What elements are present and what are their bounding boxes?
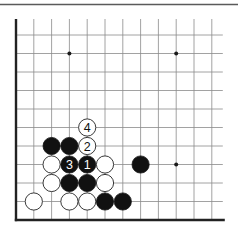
black-stone [79,174,96,191]
go-board-diagram: 4231 [0,0,238,238]
move-number-label: 4 [84,121,91,135]
black-stone-circle [79,174,96,191]
black-stone [114,193,131,210]
white-stone [61,193,78,210]
star-point [174,163,178,167]
black-stone-circle [61,137,78,154]
white-stone-circle [25,193,42,210]
black-stone-circle [132,156,149,173]
white-stone [25,193,42,210]
move-number-label: 1 [84,158,91,172]
star-point [174,52,178,56]
white-stone [96,156,113,173]
board-edges [15,19,225,221]
white-stone-circle [61,193,78,210]
black-stone-circle [96,193,113,210]
black-stone [96,193,113,210]
move-3-stone: 3 [61,156,78,173]
black-stone [43,137,60,154]
black-stone [132,156,149,173]
white-stone [96,174,113,191]
black-stone [61,174,78,191]
white-stone-circle [96,174,113,191]
black-stone-circle [61,174,78,191]
white-stone-circle [43,174,60,191]
move-1-stone: 1 [79,156,96,173]
white-stone-circle [79,193,96,210]
star-point [67,52,71,56]
move-number-label: 3 [66,158,73,172]
black-stone [61,137,78,154]
move-number-label: 2 [84,140,91,154]
white-stone [43,156,60,173]
white-stone [79,193,96,210]
black-stone-circle [114,193,131,210]
black-stone-circle [43,137,60,154]
move-4-stone: 4 [79,119,96,136]
move-2-stone: 2 [79,137,96,154]
white-stone-circle [96,156,113,173]
white-stone-circle [43,156,60,173]
white-stone [43,174,60,191]
